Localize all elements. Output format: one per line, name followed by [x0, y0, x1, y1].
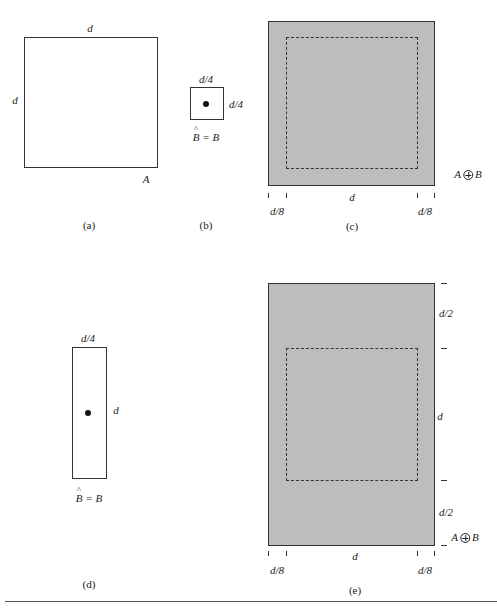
- tick-e-right-3: [441, 480, 447, 481]
- original-set-outline-e: [286, 348, 418, 481]
- set-a-left-dimension: d: [12, 94, 18, 106]
- panel-e-caption: (e): [349, 584, 361, 596]
- oplus-icon-e: [460, 533, 470, 543]
- original-set-outline-c: [286, 37, 418, 169]
- tick-e-right-4: [441, 545, 447, 546]
- c-bottom-right-dimension: d/8: [418, 205, 432, 217]
- dilation-label-e-b: B: [472, 531, 479, 543]
- b-right-dimension: d/4: [229, 98, 243, 110]
- set-a-square: [24, 37, 158, 168]
- tick-c-3: [417, 193, 418, 198]
- dilation-label-e-a: A: [451, 531, 458, 543]
- d-right-dimension: d: [113, 404, 119, 416]
- tick-e-right-2: [441, 348, 447, 349]
- tick-c-1: [268, 193, 269, 198]
- caption-divider: [5, 601, 497, 602]
- set-a-top-dimension: d: [87, 22, 93, 34]
- tick-e-right-1: [441, 283, 447, 284]
- e-right-middle-dimension: d: [437, 410, 443, 422]
- panel-a-caption: (a): [83, 219, 95, 231]
- tick-e-2: [286, 551, 287, 556]
- c-bottom-center-dimension: d: [349, 191, 355, 203]
- origin-dot: [203, 101, 209, 107]
- b-reflection-label: B = B: [193, 131, 219, 143]
- tick-c-4: [434, 193, 435, 198]
- dilation-label-c-a: A: [454, 168, 461, 180]
- b-equals-b: = B: [200, 131, 220, 143]
- panel-b-caption: (b): [200, 219, 213, 231]
- dilation-label-c: AB: [454, 168, 481, 180]
- tick-c-2: [286, 193, 287, 198]
- d-reflection-label: B = B: [76, 492, 102, 504]
- oplus-icon: [463, 170, 473, 180]
- e-bottom-left-dimension: d/8: [270, 564, 284, 576]
- tick-e-4: [434, 551, 435, 556]
- origin-dot-d: [85, 410, 91, 416]
- b-hat-symbol: B: [193, 131, 200, 143]
- dilation-label-c-b: B: [475, 168, 482, 180]
- tick-e-1: [268, 551, 269, 556]
- tick-e-3: [417, 551, 418, 556]
- panel-d-caption: (d): [83, 578, 96, 590]
- c-bottom-left-dimension: d/8: [270, 205, 284, 217]
- dilation-label-e: AB: [451, 531, 478, 543]
- e-bottom-center-dimension: d: [352, 550, 358, 562]
- e-bottom-right-dimension: d/8: [418, 564, 432, 576]
- set-a-label: A: [143, 173, 150, 185]
- d-equals-b: = B: [83, 492, 103, 504]
- e-right-bottom-dimension: d/2: [439, 506, 453, 518]
- b-top-dimension: d/4: [199, 73, 213, 85]
- e-right-top-dimension: d/2: [439, 307, 453, 319]
- d-top-dimension: d/4: [81, 332, 95, 344]
- d-hat-symbol: B: [76, 492, 83, 504]
- panel-c-caption: (c): [346, 220, 358, 232]
